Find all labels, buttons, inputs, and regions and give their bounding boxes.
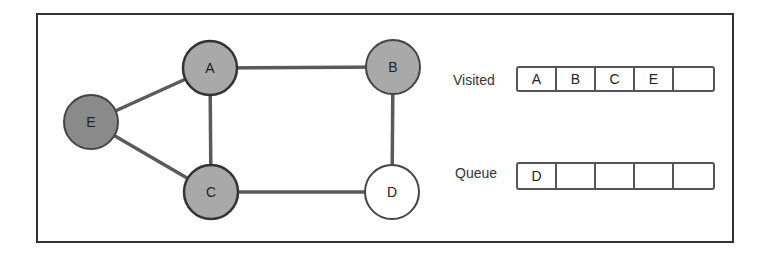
visited-label: Visited [453, 72, 495, 88]
visited-cell: C [596, 68, 635, 90]
queue-cell: D [518, 164, 557, 188]
node-label-A: A [205, 60, 215, 76]
node-C: C [184, 165, 238, 219]
node-B: B [366, 40, 420, 94]
queue-label: Queue [455, 165, 497, 181]
queue-cell [557, 164, 596, 188]
queue-cell [635, 164, 674, 188]
node-label-C: C [206, 184, 216, 200]
visited-cell [674, 68, 713, 90]
visited-array: A B C E [516, 66, 715, 92]
node-label-B: B [388, 59, 397, 75]
visited-cell: E [635, 68, 674, 90]
queue-cell [674, 164, 713, 188]
node-A: A [183, 41, 237, 95]
visited-cell: A [518, 68, 557, 90]
queue-array: D [516, 162, 715, 190]
node-D: D [365, 165, 419, 219]
graph-canvas: E A B C D [0, 0, 766, 253]
node-label-E: E [86, 114, 95, 130]
edges [91, 67, 393, 192]
node-E: E [64, 95, 118, 149]
visited-cell: B [557, 68, 596, 90]
queue-cell [596, 164, 635, 188]
node-label-D: D [387, 184, 397, 200]
